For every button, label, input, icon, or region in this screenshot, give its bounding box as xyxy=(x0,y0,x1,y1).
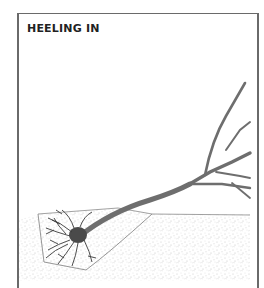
soil xyxy=(19,208,250,281)
